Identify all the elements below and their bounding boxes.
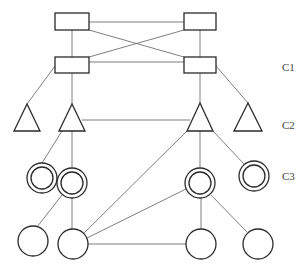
- double-circle-nodes: [27, 161, 269, 198]
- rect-node-mid-left: [55, 57, 89, 73]
- double-circle-node-2: [57, 168, 87, 198]
- triangle-node-4: [234, 103, 262, 131]
- rect-node-top-right: [184, 13, 216, 30]
- edge-rect-mid-right-to-tri-4: [216, 66, 248, 103]
- triangle-node-1: [14, 104, 40, 131]
- level-label-c2: C2: [282, 119, 295, 131]
- edge-rect-mid-left-to-tri-1: [27, 66, 55, 104]
- rect-node-top-left: [55, 13, 89, 30]
- level-label-c3: C3: [282, 170, 295, 182]
- circle-node-4: [243, 229, 273, 259]
- circle-nodes: [18, 226, 273, 259]
- double-circle-node-3: [185, 168, 215, 198]
- edge-tri-3-to-circle-2: [83, 131, 187, 234]
- double-circle-node-4: [239, 161, 269, 191]
- rect-node-mid-right: [184, 57, 216, 73]
- edge-dcircle-3-to-circle-4: [211, 195, 247, 232]
- circle-node-3: [186, 229, 216, 259]
- circle-node-1: [18, 226, 48, 256]
- edge-tri-2-to-dcircle-1: [42, 131, 62, 163]
- edge-dcircle-2-to-circle-1: [37, 195, 62, 227]
- double-circle-node-1: [27, 163, 57, 193]
- triangle-node-2: [59, 104, 85, 131]
- level-label-c1: C1: [282, 61, 295, 73]
- edge-dcircle-3-to-circle-2: [87, 189, 186, 238]
- triangle-node-3: [187, 103, 213, 131]
- edges: [27, 22, 248, 244]
- network-diagram: C1 C2 C3: [0, 0, 305, 273]
- triangle-nodes: [14, 103, 262, 131]
- level-labels: C1 C2 C3: [282, 61, 295, 182]
- circle-node-2: [58, 229, 88, 259]
- edge-tri-3-to-dcircle-4: [213, 131, 244, 164]
